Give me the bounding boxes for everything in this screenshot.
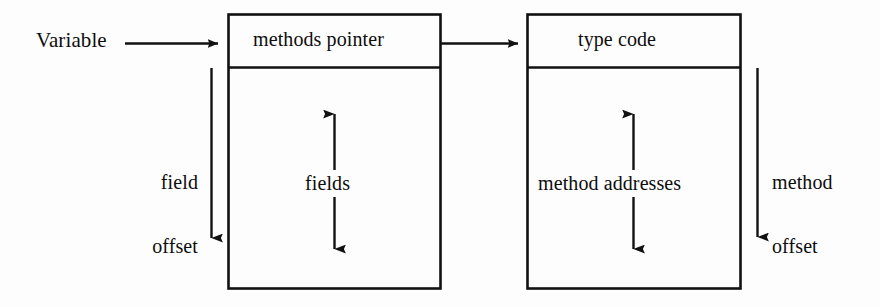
- method-offset-label: method offset: [772, 130, 872, 300]
- field-offset-label-line1: field: [122, 172, 198, 193]
- field-offset-label-line2: offset: [122, 236, 198, 257]
- method-addresses-label: method addresses: [538, 173, 681, 194]
- field-offset-label: field offset: [122, 130, 198, 300]
- fields-label: fields: [305, 173, 350, 194]
- methods-pointer-label: methods pointer: [253, 29, 384, 50]
- variable-label: Variable: [36, 29, 107, 51]
- method-offset-label-line2: offset: [772, 236, 872, 257]
- method-offset-label-line1: method: [772, 172, 872, 193]
- object-layout-diagram: Variable methods pointer type code field…: [0, 0, 880, 307]
- type-code-label: type code: [578, 29, 656, 50]
